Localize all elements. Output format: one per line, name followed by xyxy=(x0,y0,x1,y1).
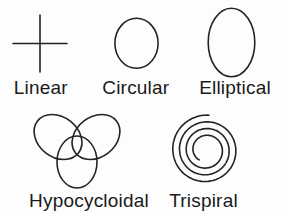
trispiral-label: Trispiral xyxy=(169,191,238,210)
trefoil-bottom-ellipse xyxy=(57,136,97,188)
shapes-group xyxy=(13,8,255,188)
elliptical-label: Elliptical xyxy=(199,78,271,97)
hypocycloidal-shape xyxy=(25,105,129,188)
trispiral-shape xyxy=(173,115,236,181)
circular-shape xyxy=(115,18,158,68)
patterns-canvas xyxy=(0,0,281,214)
scan-patterns-figure: Linear Circular Elliptical Hypocycloidal… xyxy=(0,0,281,214)
circular-label: Circular xyxy=(102,78,169,97)
linear-label: Linear xyxy=(14,78,68,97)
hypocycloidal-label: Hypocycloidal xyxy=(29,191,149,210)
linear-crosshair-shape xyxy=(13,15,67,72)
elliptical-shape xyxy=(208,8,255,76)
